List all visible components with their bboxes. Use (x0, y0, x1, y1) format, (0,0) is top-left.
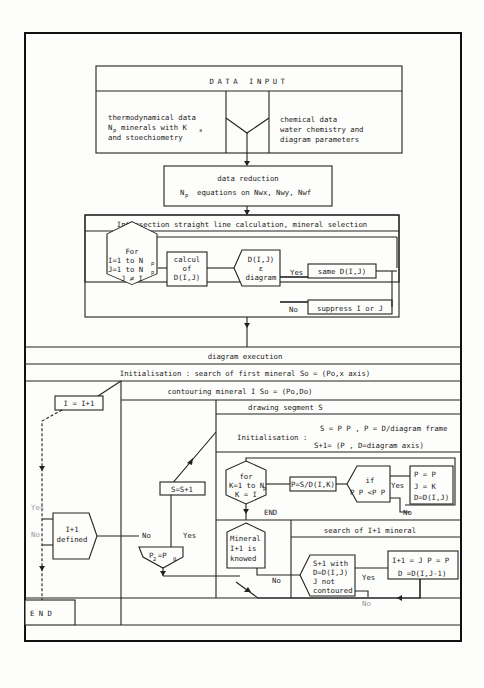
search-block: search of I+1 mineral Mineral I+1 is kno… (216, 520, 461, 608)
search-yes-label: Yes (362, 573, 375, 582)
svg-text:Mineral: Mineral (230, 534, 261, 543)
left-input-line-1: thermodynamical data (108, 113, 196, 122)
svg-text:p: p (185, 192, 188, 199)
search-title: search of I+1 mineral (324, 526, 416, 535)
arrow-up-icon (244, 587, 251, 592)
svg-text:D(I,J): D(I,J) (174, 273, 200, 282)
init-line-1: S = P P , P = D/diagram frame (320, 424, 447, 433)
arrow-down-icon (244, 210, 250, 215)
search-no-label: No (362, 599, 371, 608)
arrow-down-icon (39, 566, 45, 571)
svg-text:0: 0 (173, 556, 176, 562)
arrow-down-icon (244, 323, 250, 328)
right-input-line-2: water chemistry and (280, 125, 363, 134)
drawing-segment-title: drawing segment S (248, 403, 323, 412)
svg-text:K=1 to N: K=1 to N (229, 481, 264, 490)
svg-text:for: for (239, 472, 253, 481)
no-label: No (289, 305, 298, 314)
svg-text:diagram: diagram (246, 273, 277, 282)
svg-text:contoured: contoured (313, 586, 353, 595)
svg-text:D=D(I,J): D=D(I,J) (313, 568, 348, 577)
svg-text:p: p (263, 485, 266, 492)
diagram-execution-title: diagram execution (208, 352, 283, 361)
svg-text:For: For (125, 247, 139, 256)
svg-text:I+1: I+1 (65, 525, 78, 534)
svg-text:P =P: P =P (149, 551, 167, 560)
intersection-title: Intersection straight line calculation, … (117, 220, 367, 229)
svg-text:suppress I or J: suppress I or J (317, 304, 383, 313)
svg-text:I=1 to N: I=1 to N (108, 256, 143, 265)
left-input-line-3: and stoechiometry (108, 133, 183, 142)
svg-text:J = K: J = K (414, 482, 437, 491)
yes-label: Yes (290, 268, 303, 277)
svg-text:S=S+1: S=S+1 (171, 485, 193, 494)
svg-text:J not: J not (313, 577, 335, 586)
yes-mid-label: Yes (183, 531, 196, 540)
svg-text:J=1 to N: J=1 to N (108, 265, 143, 274)
svg-text:P P <P P: P P <P P (350, 488, 386, 497)
init-line-2: S+1= (P , D=diagram axis) (314, 441, 424, 450)
svg-text:K = I: K = I (235, 490, 257, 499)
yes-left-label: Yes (31, 503, 44, 512)
no-left-label: No (31, 530, 40, 539)
svg-text:defined: defined (57, 535, 88, 544)
svg-text:ε: ε (259, 264, 263, 273)
svg-text:I = I+1: I = I+1 (64, 399, 95, 408)
flowchart: DATA INPUT thermodynamical data N p mine… (0, 0, 484, 688)
svg-text:knowed: knowed (230, 554, 256, 563)
if-yes-label: Yes (391, 481, 404, 490)
contouring-title: contouring mineral I So = (Po,Do) (168, 387, 313, 396)
arrow-down-icon (160, 571, 166, 576)
svg-text:N: N (180, 188, 184, 197)
svg-text:D(I,J): D(I,J) (248, 255, 274, 264)
data-reduction-equations: equations on Nwx, Nwy, Nwf (197, 188, 311, 197)
if-no-label: No (403, 508, 412, 517)
svg-text:calcul: calcul (174, 255, 200, 264)
svg-text:D=D(I,J): D=D(I,J) (414, 493, 449, 502)
end-label: E N D (30, 609, 52, 618)
svg-text:same D(I,J): same D(I,J) (318, 267, 366, 276)
svg-text:if: if (366, 476, 375, 485)
svg-text:s: s (199, 127, 202, 133)
data-reduction-title: data reduction (217, 174, 279, 183)
right-input-line-3: diagram parameters (280, 135, 359, 144)
data-input-title: DATA INPUT (210, 77, 289, 86)
svg-text:P = P: P = P (414, 470, 437, 479)
initialisation-title: Initialisation : search of first mineral… (120, 369, 370, 378)
intersection-block: Intersection straight line calculation, … (85, 215, 399, 314)
svg-text:P=S/D(I,K): P=S/D(I,K) (291, 480, 335, 489)
right-input-line-1: chemical data (280, 115, 337, 124)
svg-text:p: p (151, 269, 154, 276)
svg-text:2: 2 (153, 556, 156, 562)
data-input-block: DATA INPUT thermodynamical data N p mine… (96, 66, 402, 166)
arrow-down-icon (243, 509, 249, 514)
arrow-down-icon (39, 466, 45, 471)
no-mid-label: No (142, 531, 151, 540)
svg-text:I+1 is: I+1 is (230, 544, 256, 553)
arrow-up-icon (187, 458, 193, 465)
svg-text:p: p (151, 260, 154, 267)
data-reduction-block: data reduction N p equations on Nwx, Nwy… (164, 166, 332, 215)
svg-text:I+1 = J P = P: I+1 = J P = P (392, 556, 450, 565)
drawing-segment-block: drawing segment S Initialisation : S = P… (216, 403, 461, 520)
svg-text:J ≠ I: J ≠ I (121, 274, 143, 283)
svg-text:of: of (183, 264, 192, 273)
arrow-down-icon (244, 161, 250, 166)
end-loop-label: END (264, 508, 277, 517)
init-label: Initialisation : (237, 433, 307, 442)
left-input-line-2: minerals with K (121, 123, 188, 132)
left-input-n: N (108, 123, 112, 132)
svg-text:S+1 with: S+1 with (313, 559, 348, 568)
known-no-label: No (272, 576, 281, 585)
svg-text:D =D(I,J-1): D =D(I,J-1) (398, 569, 446, 578)
